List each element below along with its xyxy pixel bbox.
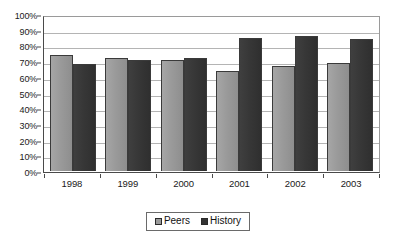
- x-axis-label-1999: 1999: [100, 175, 156, 193]
- y-axis-tickmark: [37, 141, 41, 142]
- bar-history-2001: [239, 38, 262, 171]
- bar-group-2001: [212, 17, 268, 171]
- y-axis: 100%90%80%70%60%50%40%30%20%10%0%: [0, 16, 41, 173]
- y-axis-tick-label: 80%: [20, 43, 37, 52]
- x-axis: 199819992000200120022003: [44, 175, 379, 193]
- x-axis-label-1998: 1998: [44, 175, 100, 193]
- bar-peers-2001: [216, 71, 239, 171]
- bar-history-1999: [128, 60, 151, 171]
- x-axis-tickmark: [379, 174, 380, 178]
- y-axis-tickmark: [37, 110, 41, 111]
- y-axis-tickmark: [37, 63, 41, 64]
- legend-item-history[interactable]: History: [201, 215, 241, 227]
- y-axis-tick-label: 60%: [20, 74, 37, 83]
- legend: PeersHistory: [0, 212, 396, 231]
- y-axis-tickmark: [37, 157, 41, 158]
- bar-group-2000: [156, 17, 212, 171]
- y-axis-tick-label: 40%: [20, 106, 37, 115]
- bar-peers-2000: [161, 60, 184, 171]
- y-axis-tickmark: [37, 94, 41, 95]
- legend-swatch-icon: [201, 218, 208, 225]
- y-axis-tickmark: [37, 47, 41, 48]
- y-axis-tick-label: 30%: [20, 121, 37, 130]
- bar-group-2002: [267, 17, 323, 171]
- bar-group-1999: [101, 17, 157, 171]
- bar-groups: [45, 17, 378, 171]
- x-axis-label-2001: 2001: [211, 175, 267, 193]
- y-axis-tick-label: 0%: [24, 169, 37, 178]
- bar-group-2003: [323, 17, 379, 171]
- bar-peers-1998: [50, 55, 73, 171]
- legend-box: PeersHistory: [146, 212, 250, 231]
- bar-peers-2002: [272, 66, 295, 171]
- legend-swatch-icon: [155, 218, 162, 225]
- x-axis-label-2000: 2000: [156, 175, 212, 193]
- plot-area: [43, 16, 380, 173]
- bar-history-2000: [184, 58, 207, 171]
- x-axis-label-2003: 2003: [323, 175, 379, 193]
- bar-history-2002: [295, 36, 318, 171]
- legend-item-peers[interactable]: Peers: [155, 215, 190, 227]
- y-axis-tickmark: [37, 78, 41, 79]
- y-axis-tickmark: [37, 16, 41, 17]
- y-axis-tick-label: 10%: [20, 153, 37, 162]
- legend-item-label: Peers: [164, 215, 190, 227]
- legend-item-label: History: [210, 215, 241, 227]
- bar-peers-2003: [327, 63, 350, 171]
- x-axis-label-2002: 2002: [267, 175, 323, 193]
- y-axis-tick-label: 20%: [20, 137, 37, 146]
- y-axis-tick-label: 50%: [20, 90, 37, 99]
- y-axis-tick-label: 100%: [15, 12, 37, 21]
- y-axis-tickmark: [37, 125, 41, 126]
- y-axis-tickmark: [37, 173, 41, 174]
- bar-history-2003: [350, 39, 373, 171]
- bar-history-1998: [73, 64, 96, 171]
- y-axis-tick-label: 70%: [20, 59, 37, 68]
- bar-group-1998: [45, 17, 101, 171]
- y-axis-tickmark: [37, 31, 41, 32]
- y-axis-tick-label: 90%: [20, 27, 37, 36]
- bar-chart: 100%90%80%70%60%50%40%30%20%10%0% 199819…: [0, 0, 396, 241]
- bar-peers-1999: [105, 58, 128, 171]
